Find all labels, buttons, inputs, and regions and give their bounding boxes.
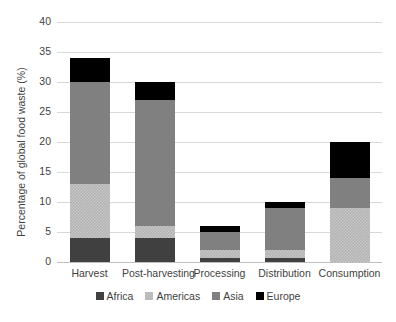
stacked-bar[interactable] xyxy=(70,58,110,262)
stacked-bar[interactable] xyxy=(135,82,175,262)
x-axis-label-post-harvesting: Post-harvesting xyxy=(122,266,187,280)
x-axis-category-labels: HarvestPost-harvestingProcessingDistribu… xyxy=(57,266,382,282)
bar-segment-europe[interactable] xyxy=(265,202,305,208)
y-axis-tick-label: 20 xyxy=(9,136,51,147)
legend-swatch-icon xyxy=(145,292,153,300)
x-axis-label-consumption: Consumption xyxy=(317,266,382,280)
stacked-bar-chart: Percentage of global food waste (%) 0510… xyxy=(0,0,396,322)
bar-segment-asia[interactable] xyxy=(330,178,370,208)
y-axis-tick-label: 5 xyxy=(9,226,51,237)
y-axis-tick-label: 40 xyxy=(9,16,51,27)
x-axis-label-distribution: Distribution xyxy=(252,266,317,280)
bar-segment-asia[interactable] xyxy=(265,208,305,250)
bar-group[interactable] xyxy=(265,22,305,262)
bar-segment-africa[interactable] xyxy=(135,238,175,262)
legend-swatch-icon xyxy=(256,292,264,300)
bar-segment-americas[interactable] xyxy=(70,184,110,238)
legend-swatch-icon xyxy=(96,292,104,300)
y-axis-tick-label: 25 xyxy=(9,106,51,117)
bar-segment-asia[interactable] xyxy=(135,100,175,226)
bar-segment-europe[interactable] xyxy=(70,58,110,82)
legend-item-americas[interactable]: Americas xyxy=(145,290,200,302)
bar-segment-europe[interactable] xyxy=(330,142,370,178)
bar-segment-americas[interactable] xyxy=(135,226,175,238)
bar-segment-americas[interactable] xyxy=(200,250,240,258)
bar-group[interactable] xyxy=(70,22,110,262)
legend-item-africa[interactable]: Africa xyxy=(96,290,134,302)
bar-segment-americas[interactable] xyxy=(265,250,305,258)
chart-legend: AfricaAmericasAsiaEurope xyxy=(0,290,396,302)
bar-segment-asia[interactable] xyxy=(200,232,240,250)
bar-group[interactable] xyxy=(135,22,175,262)
bar-segment-africa[interactable] xyxy=(70,238,110,262)
bar-segment-americas[interactable] xyxy=(330,208,370,262)
legend-swatch-icon xyxy=(212,292,220,300)
bar-segment-asia[interactable] xyxy=(70,82,110,184)
y-axis-tick-label: 10 xyxy=(9,196,51,207)
y-axis-title: Percentage of global food waste (%) xyxy=(12,22,30,282)
bar-segment-europe[interactable] xyxy=(200,226,240,232)
bar-group[interactable] xyxy=(330,22,370,262)
bars-layer xyxy=(57,22,382,262)
bar-segment-europe[interactable] xyxy=(135,82,175,100)
y-axis-tick-label: 0 xyxy=(9,256,51,267)
x-axis-label-processing: Processing xyxy=(187,266,252,280)
legend-label: Europe xyxy=(267,290,301,302)
legend-item-asia[interactable]: Asia xyxy=(212,290,243,302)
legend-label: Asia xyxy=(223,290,243,302)
bar-segment-africa[interactable] xyxy=(265,258,305,262)
stacked-bar[interactable] xyxy=(265,202,305,262)
bar-group[interactable] xyxy=(200,22,240,262)
legend-label: Africa xyxy=(107,290,134,302)
gridline xyxy=(57,262,382,263)
y-axis-tick-label: 15 xyxy=(9,166,51,177)
y-axis-tick-label: 30 xyxy=(9,76,51,87)
legend-item-europe[interactable]: Europe xyxy=(256,290,301,302)
x-axis-label-harvest: Harvest xyxy=(57,266,122,280)
legend-label: Americas xyxy=(156,290,200,302)
stacked-bar[interactable] xyxy=(330,142,370,262)
bar-segment-africa[interactable] xyxy=(200,258,240,262)
y-axis-tick-label: 35 xyxy=(9,46,51,57)
stacked-bar[interactable] xyxy=(200,226,240,262)
plot-area xyxy=(57,22,382,262)
